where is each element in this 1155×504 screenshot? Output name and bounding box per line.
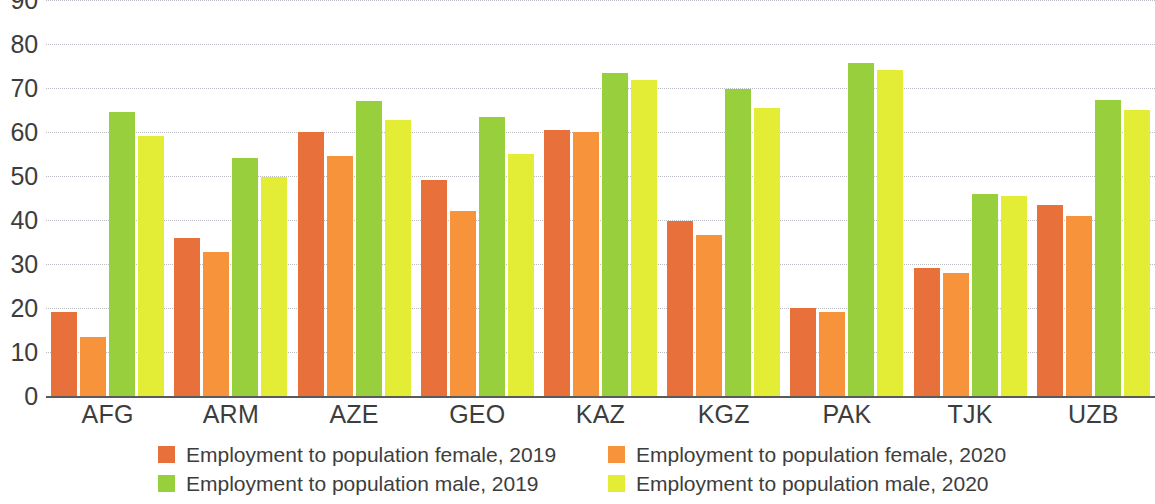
legend-item-label: Employment to population female, 2019 xyxy=(186,444,556,465)
y-axis-tick-label: 40 xyxy=(11,208,38,233)
bar xyxy=(450,211,476,396)
y-axis: 0102030405060708090 xyxy=(0,0,46,396)
bar-group xyxy=(909,0,1032,396)
bar xyxy=(848,63,874,396)
bar xyxy=(1066,216,1092,396)
bar xyxy=(138,136,164,396)
x-axis-tick-label: AFG xyxy=(46,398,169,430)
bar xyxy=(203,252,229,396)
legend-item-label: Employment to population female, 2020 xyxy=(636,444,1006,465)
bar xyxy=(109,112,135,396)
bar xyxy=(508,154,534,396)
grouped-bar-chart: 0102030405060708090 AFGARMAZEGEOKAZKGZPA… xyxy=(0,0,1155,430)
bar-group xyxy=(292,0,415,396)
bar xyxy=(298,132,324,396)
bar xyxy=(1124,110,1150,396)
legend-item[interactable]: Employment to population male, 2019 xyxy=(158,469,556,498)
legend-swatch-male-2019 xyxy=(158,475,175,492)
bar xyxy=(943,273,969,396)
chart-page: 0102030405060708090 AFGARMAZEGEOKAZKGZPA… xyxy=(0,0,1155,504)
bar xyxy=(696,235,722,396)
y-axis-tick-label: 30 xyxy=(11,252,38,277)
legend-item[interactable]: Employment to population male, 2020 xyxy=(608,469,1006,498)
y-axis-tick-label: 10 xyxy=(11,340,38,365)
bar xyxy=(1001,196,1027,396)
legend-item-label: Employment to population male, 2019 xyxy=(186,473,539,494)
bar xyxy=(819,312,845,396)
bar xyxy=(972,194,998,396)
x-axis-tick-label: GEO xyxy=(416,398,539,430)
bar xyxy=(1037,205,1063,396)
bar xyxy=(80,337,106,396)
legend-item-label: Employment to population male, 2020 xyxy=(636,473,989,494)
x-axis-tick-label: AZE xyxy=(292,398,415,430)
bar xyxy=(877,70,903,396)
legend-item[interactable]: Employment to population female, 2019 xyxy=(158,440,556,469)
bar xyxy=(479,117,505,396)
legend-column-2020: Employment to population female, 2020Emp… xyxy=(608,440,1006,498)
bar xyxy=(174,238,200,396)
y-axis-tick-label: 60 xyxy=(11,120,38,145)
y-axis-tick-label: 70 xyxy=(11,76,38,101)
legend-column-2019: Employment to population female, 2019Emp… xyxy=(158,440,556,498)
legend-swatch-male-2020 xyxy=(608,475,625,492)
legend-item[interactable]: Employment to population female, 2020 xyxy=(608,440,1006,469)
bar-group xyxy=(416,0,539,396)
bar xyxy=(631,80,657,396)
bar-groups xyxy=(46,0,1155,396)
bar xyxy=(356,101,382,396)
bar xyxy=(232,158,258,396)
x-axis-tick-label: KAZ xyxy=(539,398,662,430)
y-axis-tick-label: 0 xyxy=(24,384,38,409)
chart-legend: Employment to population female, 2019Emp… xyxy=(0,440,1155,504)
bar xyxy=(327,156,353,396)
bar xyxy=(261,177,287,396)
bar xyxy=(51,312,77,396)
x-axis-tick-label: PAK xyxy=(785,398,908,430)
legend-swatch-female-2019 xyxy=(158,446,175,463)
bar-group xyxy=(1032,0,1155,396)
x-axis-tick-label: ARM xyxy=(169,398,292,430)
bar-group xyxy=(662,0,785,396)
bar xyxy=(544,130,570,396)
x-axis-tick-label: UZB xyxy=(1032,398,1155,430)
bar xyxy=(790,308,816,396)
bar-group xyxy=(169,0,292,396)
bar-group xyxy=(46,0,169,396)
y-axis-tick-label: 20 xyxy=(11,296,38,321)
x-axis-tick-label: TJK xyxy=(909,398,1032,430)
bar xyxy=(725,89,751,396)
bar xyxy=(754,108,780,396)
bar xyxy=(385,120,411,396)
x-axis-tick-label: KGZ xyxy=(662,398,785,430)
bar xyxy=(914,268,940,396)
bar xyxy=(1095,100,1121,396)
bar-group xyxy=(785,0,908,396)
y-axis-tick-label: 50 xyxy=(11,164,38,189)
bar xyxy=(421,180,447,396)
bar xyxy=(667,221,693,396)
bar-group xyxy=(539,0,662,396)
plot-area xyxy=(46,0,1155,396)
y-axis-tick-label: 80 xyxy=(11,32,38,57)
x-axis-labels: AFGARMAZEGEOKAZKGZPAKTJKUZB xyxy=(46,398,1155,430)
legend-swatch-female-2020 xyxy=(608,446,625,463)
bar xyxy=(573,132,599,396)
y-axis-tick-label: 90 xyxy=(11,0,38,13)
bar xyxy=(602,73,628,396)
